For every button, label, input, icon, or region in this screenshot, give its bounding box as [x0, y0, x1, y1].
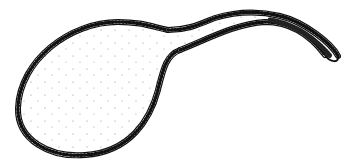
- flask-outline-drawing: [0, 0, 349, 163]
- figure: Flask-shaped outline drawing: [0, 0, 349, 163]
